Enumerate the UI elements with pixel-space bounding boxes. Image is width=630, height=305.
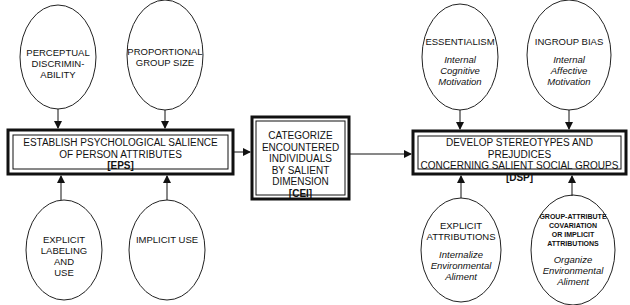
label-perceptual-discriminability: PERCEPTUAL DISCRIMIN- ABILITY bbox=[20, 47, 96, 80]
label-explicit-labeling-use: EXPLICIT LABELING AND USE bbox=[26, 234, 102, 278]
label-group-attribute-covariation: GROUP-ATTRIBUTE COVARIATION OR IMPLICIT … bbox=[531, 212, 615, 287]
label-essentialism: ESSENTIALISM Internal Cognitive Motivati… bbox=[420, 36, 500, 87]
ellipse-implicit-use bbox=[129, 200, 205, 300]
label-implicit-use: IMPLICIT USE bbox=[129, 234, 205, 245]
cei-box-text: CATEGORIZE ENCOUNTERED INDIVIDUALS BY SA… bbox=[252, 130, 349, 199]
label-proportional-group-size: PROPORTIONAL GROUP SIZE bbox=[125, 46, 205, 68]
dsp-box-text: DEVELOP STEREOTYPES AND PREJUDICES CONCE… bbox=[418, 137, 621, 183]
label-explicit-attributions: EXPLICIT ATTRIBUTIONS Internalize Enviro… bbox=[421, 220, 501, 282]
eps-box-text: ESTABLISH PSYCHOLOGICAL SALIENCE OF PERS… bbox=[13, 137, 228, 172]
label-ingroup-bias: INGROUP BIAS Internal Affective Motivati… bbox=[529, 36, 609, 87]
